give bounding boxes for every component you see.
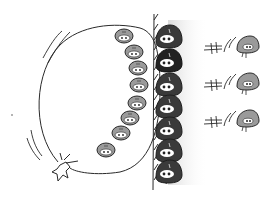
flying-creature-1 <box>237 36 259 58</box>
loop-creatures <box>97 29 148 157</box>
motion-lines-left <box>27 31 70 160</box>
loop-creature-6 <box>121 111 139 125</box>
flying-group-1 <box>204 36 259 58</box>
flying-creatures <box>204 36 259 132</box>
loop-creature-2 <box>125 45 143 59</box>
wall-creature-1 <box>156 25 182 48</box>
balloon-knot-icon <box>52 153 78 181</box>
flying-group-3 <box>204 110 259 132</box>
speed-lines-icon <box>204 37 236 54</box>
stray-dot <box>11 114 13 116</box>
flying-group-2 <box>204 73 259 95</box>
sketch-canvas <box>0 0 280 200</box>
wall-creature-5 <box>156 117 182 140</box>
flying-creature-2 <box>237 73 259 95</box>
wall-creature-6 <box>156 139 182 162</box>
loop-creature-7 <box>112 126 130 140</box>
wall-creature-7 <box>156 160 182 183</box>
speed-lines-icon <box>204 74 236 91</box>
wall-creature-2 <box>156 49 182 72</box>
speed-lines-icon <box>204 111 236 128</box>
loop-creature-1 <box>115 29 133 43</box>
flying-creature-3 <box>237 110 259 132</box>
loop-creature-3 <box>129 61 147 75</box>
loop-creature-5 <box>128 96 146 110</box>
loop-creature-4 <box>130 78 148 92</box>
loop-creature-8 <box>97 143 115 157</box>
illustration-scene <box>0 0 280 200</box>
